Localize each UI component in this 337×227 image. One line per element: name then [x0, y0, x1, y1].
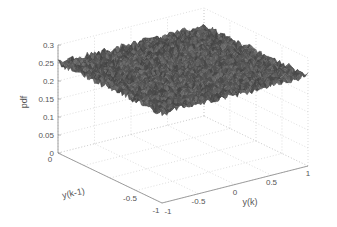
x-tick-label: -0.5 — [192, 197, 206, 206]
x-tick-label: 0 — [233, 188, 238, 197]
z-tick-label: 0.15 — [38, 95, 54, 104]
z-axis-label: pdf — [19, 95, 29, 108]
pdf-surface — [58, 25, 308, 116]
x-axis-label: y(k) — [243, 197, 258, 207]
z-tick-label: 0.2 — [43, 77, 55, 86]
z-tick-label: 0 — [48, 155, 53, 164]
x-tick-label: 0.5 — [266, 178, 278, 187]
z-tick-label: 0.1 — [43, 113, 55, 122]
x-tick-label: 1 — [306, 169, 311, 178]
y-tick-label: -0.5 — [123, 194, 137, 203]
x-tick-label: -1 — [164, 207, 172, 216]
pdf-surface-chart: 00.050.10.150.20.250.30-1-0.500.51-1-0.5… — [0, 0, 337, 227]
y-axis-label: y(k-1) — [61, 186, 86, 201]
z-tick-label: 0.05 — [38, 131, 54, 140]
z-tick-label: 0.25 — [38, 59, 54, 68]
z-tick-label: 0.3 — [43, 41, 55, 50]
y-tick-label: -1 — [152, 206, 160, 215]
